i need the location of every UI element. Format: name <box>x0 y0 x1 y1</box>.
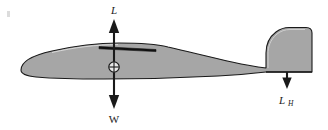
tail-load-label: L <box>278 94 285 106</box>
glider-force-diagram: L W L H <box>0 0 328 130</box>
weight-label: W <box>109 113 120 125</box>
tail-load-label-subscript: H <box>287 99 294 108</box>
scan-artifact <box>7 11 10 17</box>
figure-container: L W L H <box>0 0 328 130</box>
center-of-gravity-marker <box>109 62 119 72</box>
lift-label: L <box>110 4 117 16</box>
